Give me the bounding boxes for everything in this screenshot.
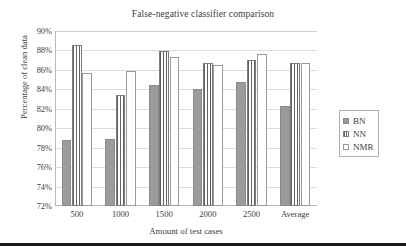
gridline [56,109,317,110]
x-axis-tick-labels: 5001000150020002500Average [55,209,317,225]
x-tick-label: 500 [70,209,83,219]
gridline [56,70,317,71]
legend-label: NN [353,129,366,139]
legend-label: BN [353,116,366,126]
chart-figure: False-negative classifier comparison Per… [0,0,406,250]
bottom-divider [0,243,406,246]
x-tick-label: 1000 [112,209,129,219]
x-axis-title: Amount of test cases [55,226,317,236]
gridline [56,187,317,188]
plot-area [55,31,317,206]
gridline [56,50,317,51]
y-tick-label: 88% [4,46,52,55]
legend-label: NMR [353,142,374,152]
legend-swatch-nn-icon [343,131,349,137]
legend-item-nmr[interactable]: NMR [343,140,374,153]
legend-swatch-nmr-icon [343,144,349,150]
gridline [56,167,317,168]
legend-swatch-bn-icon [343,118,349,124]
x-tick-label: 2500 [243,209,260,219]
legend-item-bn[interactable]: BN [343,114,374,127]
y-tick-label: 76% [4,163,52,172]
x-tick-label: 1500 [156,209,173,219]
gridline [56,128,317,129]
chart-title: False-negative classifier comparison [0,9,406,19]
gridline [56,148,317,149]
y-tick-label: 74% [4,182,52,191]
x-tick-label: 2000 [199,209,216,219]
gridline [56,89,317,90]
y-tick-label: 86% [4,65,52,74]
y-axis-tick-labels: 72%74%76%78%80%82%84%86%88%90% [0,31,52,206]
y-tick-label: 82% [4,104,52,113]
legend-item-nn[interactable]: NN [343,127,374,140]
y-tick-label: 90% [4,27,52,36]
y-tick-label: 84% [4,85,52,94]
gridline [56,31,317,32]
y-tick-label: 80% [4,124,52,133]
y-tick-label: 78% [4,143,52,152]
y-tick-label: 72% [4,202,52,211]
chart-legend: BNNNNMR [339,110,379,157]
x-tick-label: Average [281,209,309,219]
